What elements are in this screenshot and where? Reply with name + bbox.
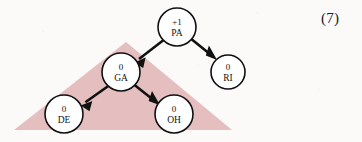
node-pa-label: PA (171, 28, 182, 38)
arrow-head-ri (206, 46, 217, 61)
figure-container: +1 PA 0 RI 0 GA 0 DE 0 OH (0, 0, 362, 142)
node-oh[interactable]: 0 OH (155, 95, 193, 133)
node-oh-value: 0 (172, 104, 177, 114)
node-ri-label: RI (223, 73, 233, 83)
node-ri[interactable]: 0 RI (211, 55, 245, 89)
node-de-label: DE (58, 115, 71, 125)
node-pa-value: +1 (172, 17, 182, 27)
tree-diagram: +1 PA 0 RI 0 GA 0 DE 0 OH (0, 0, 362, 142)
figure-number-label: (7) (321, 10, 339, 27)
node-oh-label: OH (167, 115, 181, 125)
node-ga-value: 0 (119, 62, 124, 72)
node-de[interactable]: 0 DE (45, 95, 83, 133)
node-ga-label: GA (114, 73, 128, 83)
edge-pa-ri (192, 39, 218, 60)
node-ga[interactable]: 0 GA (102, 53, 140, 91)
node-pa[interactable]: +1 PA (158, 8, 196, 46)
node-ri-value: 0 (226, 62, 231, 72)
node-de-value: 0 (62, 104, 67, 114)
